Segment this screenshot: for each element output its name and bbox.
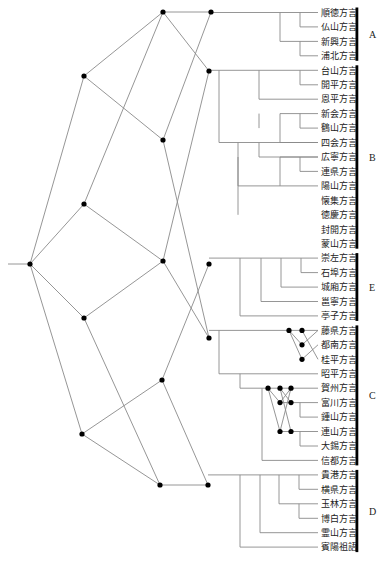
- leaf-label: 封開方言: [321, 224, 357, 235]
- leaf-label: 恩平方言: [321, 93, 357, 104]
- leaf-label: 玉林方言: [321, 498, 357, 509]
- network-edge: [163, 12, 211, 140]
- network-edge: [163, 71, 209, 261]
- network-node: [265, 386, 270, 391]
- network-node: [208, 9, 213, 14]
- network-node: [160, 137, 165, 142]
- leaf-label: 霊山方言: [321, 527, 357, 538]
- leaf-label: 富川方言: [321, 397, 357, 408]
- group-bar-d: [356, 470, 359, 552]
- network-node: [206, 261, 211, 266]
- network-edge: [30, 204, 84, 264]
- tree-branch: [219, 330, 318, 373]
- network-node: [205, 482, 210, 487]
- group-bar-a: [356, 8, 359, 61]
- tree-branch: [261, 258, 318, 301]
- leaf-label: 順徳方言: [321, 7, 357, 18]
- tree-branch: [300, 432, 318, 447]
- group-label-d: D: [369, 506, 376, 517]
- tree-branch: [301, 258, 318, 273]
- network-node: [79, 431, 84, 436]
- network-node: [286, 328, 291, 333]
- leaf-label: 連県方言: [321, 166, 357, 177]
- tree-branch: [300, 114, 318, 129]
- network-edge: [302, 345, 318, 360]
- leaf-label: 崇左方言: [321, 252, 357, 263]
- network-edge: [302, 330, 318, 344]
- network-node: [81, 201, 86, 206]
- leaf-label: 開平方言: [321, 79, 357, 90]
- network-node: [206, 335, 211, 340]
- leaf-label: 賓陽祖語: [321, 541, 357, 552]
- network-node: [81, 73, 86, 78]
- leaf-label: 都南方言: [321, 339, 357, 350]
- group-label-c: C: [369, 390, 376, 401]
- tree-branch: [299, 504, 318, 519]
- network-node: [299, 328, 304, 333]
- leaf-label: 亭子方言: [321, 310, 357, 321]
- tree-branch: [300, 41, 318, 55]
- leaf-label: 広寧方言: [321, 151, 357, 162]
- leaf-label: 石埠方言: [321, 267, 357, 278]
- network-node: [160, 258, 165, 263]
- leaf-label: 四会方言: [321, 137, 357, 148]
- leaf-label: 懐集方言: [321, 195, 357, 206]
- leaf-label: 台山方言: [321, 65, 357, 76]
- leaf-label: 新会方言: [321, 108, 357, 119]
- tree-branch: [300, 403, 318, 418]
- network-node: [206, 68, 211, 73]
- tree-branch: [262, 388, 318, 460]
- group-label-a: A: [369, 29, 377, 40]
- network-edge: [268, 388, 280, 431]
- leaf-label: 城廂方言: [321, 281, 357, 292]
- tree-branch: [299, 475, 318, 489]
- leaf-label: 大錫方言: [321, 440, 357, 451]
- leaf-label: 徳慶方言: [321, 209, 357, 220]
- group-label-b: B: [369, 152, 376, 163]
- tree-branch: [300, 70, 318, 85]
- leaf-label: 連山方言: [321, 426, 357, 437]
- group-bars: [356, 8, 359, 553]
- leaf-label: 桂平方言: [321, 354, 357, 365]
- network-node: [81, 315, 86, 320]
- network-node: [160, 9, 165, 14]
- leaf-label: 横県方言: [321, 484, 357, 495]
- network-node: [288, 386, 293, 391]
- network-node: [288, 400, 293, 405]
- leaf-label: 鶴山方言: [321, 122, 357, 133]
- network-edge: [84, 12, 163, 204]
- group-label-e: E: [369, 282, 375, 293]
- network-edge: [84, 261, 163, 318]
- group-bar-e: [356, 253, 359, 321]
- leaf-label: 貴港方言: [321, 469, 357, 480]
- leaf-label: 陽山方言: [321, 180, 357, 191]
- tree-branch: [259, 143, 318, 158]
- network-edge: [162, 264, 209, 380]
- network-node: [288, 429, 293, 434]
- tree-branch: [219, 70, 318, 142]
- tree-branch: [300, 13, 318, 27]
- network-node: [277, 429, 282, 434]
- network-node: [299, 357, 304, 362]
- leaf-label: 昭平方言: [321, 368, 357, 379]
- group-bar-c: [356, 325, 359, 465]
- network-node: [27, 261, 32, 266]
- leaf-label: 鍾山方言: [321, 411, 357, 422]
- leaf-labels: 順徳方言仏山方言新興方言浦北方言A台山方言開平方言恩平方言新会方言鶴山方言四会方…: [321, 7, 377, 553]
- tree-branch: [300, 157, 318, 171]
- group-bar-b: [356, 65, 359, 248]
- leaf-label: 邕寧方言: [321, 296, 357, 307]
- leaf-label: 博白方言: [321, 513, 357, 524]
- network-edge: [30, 76, 84, 264]
- network-edges: [8, 12, 318, 547]
- network-edge: [84, 12, 163, 76]
- leaf-label: 新興方言: [321, 36, 357, 47]
- network-node: [299, 342, 304, 347]
- leaf-label: 蒙山方言: [321, 238, 357, 249]
- leaf-label: 賀州方言: [321, 382, 357, 393]
- leaf-label: 仏山方言: [321, 21, 357, 32]
- leaf-label: 信都方言: [321, 455, 357, 466]
- network-edge: [82, 380, 162, 434]
- network-node: [277, 400, 282, 405]
- network-edge: [84, 204, 163, 261]
